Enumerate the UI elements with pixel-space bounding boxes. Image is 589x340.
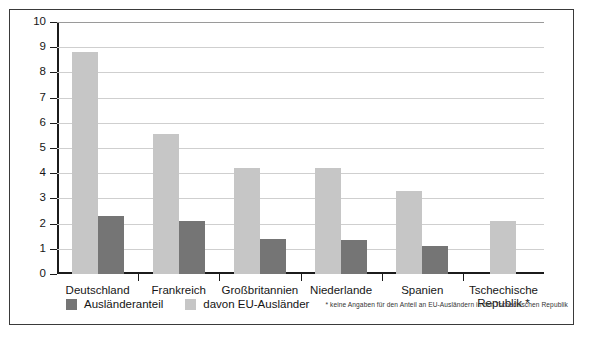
y-axis-tick (50, 249, 57, 250)
x-axis-tick (219, 274, 220, 281)
y-axis-label: 9 (40, 41, 46, 53)
y-axis-label: 10 (33, 16, 46, 28)
bar (490, 221, 516, 274)
legend-entry: Ausländeranteil (66, 298, 163, 310)
legend-swatch-icon (185, 299, 196, 310)
legend-label: Ausländeranteil (84, 298, 163, 310)
y-axis-tick (50, 72, 57, 73)
y-axis-tick (50, 274, 57, 275)
y-axis-tick (50, 224, 57, 225)
plot-area: 012345678910 DeutschlandFrankreichGroßbr… (57, 22, 544, 274)
y-axis-label: 8 (40, 67, 46, 79)
y-axis-tick (50, 98, 57, 99)
y-axis-label: 3 (40, 193, 46, 205)
chart-figure: 012345678910 DeutschlandFrankreichGroßbr… (9, 9, 574, 325)
x-axis-category-label: Frankreich (152, 284, 206, 297)
x-axis-tick (382, 274, 383, 281)
y-axis-label: 5 (40, 142, 46, 154)
x-axis-category-label: Großbritannien (222, 284, 299, 297)
y-axis-label: 1 (40, 243, 46, 255)
y-axis-tick (50, 148, 57, 149)
bar (341, 240, 367, 274)
bar (98, 216, 124, 274)
y-axis-label: 4 (40, 167, 46, 179)
x-axis-category-label: Niederlande (310, 284, 372, 297)
y-axis-label: 6 (40, 117, 46, 129)
x-axis-category-label: Spanien (401, 284, 443, 297)
legend-swatch-icon (66, 299, 77, 310)
y-axis-tick (50, 22, 57, 23)
y-axis-tick (50, 173, 57, 174)
bar (234, 168, 260, 274)
y-axis-label: 7 (40, 92, 46, 104)
bar-group: Tschechische Republik * (463, 22, 544, 274)
legend-label: davon EU-Ausländer (203, 298, 309, 310)
bar-group: Deutschland (57, 22, 138, 274)
x-axis-tick (463, 274, 464, 281)
x-axis-tick (138, 274, 139, 281)
bar-group: Spanien (382, 22, 463, 274)
y-axis-tick (50, 123, 57, 124)
x-axis-category-label: Deutschland (66, 284, 130, 297)
bar-group: Großbritannien (219, 22, 300, 274)
legend-footnote: * keine Angaben für den Anteil an EU-Aus… (325, 301, 568, 308)
bar (260, 239, 286, 274)
bar-group: Frankreich (138, 22, 219, 274)
y-axis-tick (50, 198, 57, 199)
legend-entries: Ausländeranteildavon EU-Ausländer (66, 298, 331, 310)
bar (422, 246, 448, 274)
bar-group: Niederlande (301, 22, 382, 274)
x-axis-tick (301, 274, 302, 281)
y-axis-label: 0 (40, 268, 46, 280)
bar (315, 168, 341, 274)
bar (72, 52, 98, 274)
y-axis-label: 2 (40, 218, 46, 230)
bar (153, 134, 179, 274)
chart-legend: Ausländeranteildavon EU-Ausländer * kein… (66, 298, 568, 310)
bar (179, 221, 205, 274)
legend-entry: davon EU-Ausländer (185, 298, 309, 310)
y-axis-tick (50, 47, 57, 48)
bar (396, 191, 422, 274)
